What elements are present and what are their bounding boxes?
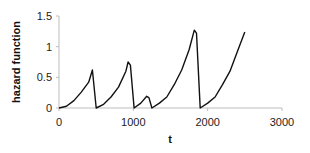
x-tick-label: 1000 (121, 116, 145, 128)
y-tick-label: 1.5 (37, 10, 52, 22)
y-tick-label: 1 (46, 41, 52, 53)
x-tick-label: 0 (56, 116, 62, 128)
series-group (59, 30, 245, 108)
y-ticks: 00.511.5 (37, 10, 59, 114)
x-tick-label: 3000 (270, 116, 294, 128)
y-axis-title: hazard function (10, 21, 22, 103)
y-tick-label: 0.5 (37, 71, 52, 83)
x-tick-label: 2000 (195, 116, 219, 128)
x-axis-title: t (168, 133, 172, 145)
y-tick-label: 0 (46, 102, 52, 114)
hazard-chart: 00.511.5 0100020003000 hazard function t (0, 0, 310, 153)
axes (59, 16, 282, 108)
series-line-hazard (59, 30, 245, 108)
x-ticks: 0100020003000 (56, 108, 294, 128)
